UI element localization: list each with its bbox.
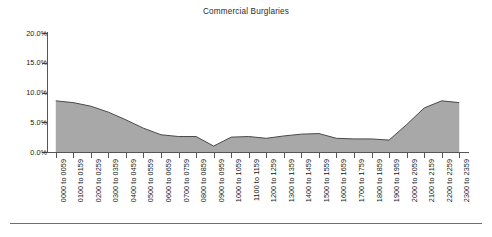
- x-tick-label: 1700 to 1759: [357, 159, 366, 202]
- x-tick-mark: [143, 153, 144, 158]
- x-tick-mark: [284, 153, 285, 158]
- area-series: [47, 33, 468, 152]
- x-tick-mark: [442, 153, 443, 158]
- x-tick-label: 2100 to 2159: [427, 159, 436, 202]
- x-tick-label: 1200 to 1259: [269, 159, 278, 202]
- x-tick-label: 0700 to 0759: [182, 159, 191, 202]
- x-tick-label: 1400 to 1459: [304, 159, 313, 202]
- x-tick-label: 1600 to 1659: [339, 159, 348, 202]
- x-tick-mark: [336, 153, 337, 158]
- x-tick-label: 1500 to 1559: [322, 159, 331, 202]
- chart-title: Commercial Burglaries: [0, 7, 492, 16]
- x-tick-mark: [196, 153, 197, 158]
- x-tick-label: 0900 to 0959: [217, 159, 226, 202]
- area-fill: [56, 101, 459, 152]
- y-tick-label: 20.0%: [9, 29, 47, 38]
- x-tick-label: 0600 to 0659: [164, 159, 173, 202]
- x-tick-mark: [161, 153, 162, 158]
- x-tick-mark: [108, 153, 109, 158]
- x-tick-label: 1800 to 1859: [375, 159, 384, 202]
- y-axis: 20.0%15.0%10.0%5.0%0.0%: [0, 0, 47, 237]
- x-tick-label: 2200 to 2259: [445, 159, 454, 202]
- x-tick-mark: [389, 153, 390, 158]
- x-axis-labels: 0000 to 00590100 to 01590200 to 02590300…: [47, 159, 468, 219]
- x-tick-label: 2300 to 2359: [462, 159, 471, 202]
- x-tick-mark: [179, 153, 180, 158]
- x-tick-label: 1300 to 1359: [287, 159, 296, 202]
- x-tick-mark: [126, 153, 127, 158]
- y-tick-label: 0.0%: [9, 148, 47, 157]
- x-tick-label: 0500 to 0559: [146, 159, 155, 202]
- x-tick-label: 0000 to 0059: [59, 159, 68, 202]
- x-tick-mark: [319, 153, 320, 158]
- x-tick-mark: [56, 153, 57, 158]
- x-tick-label: 0800 to 0859: [199, 159, 208, 202]
- chart-figure: Commercial Burglaries 20.0%15.0%10.0%5.0…: [0, 0, 492, 237]
- x-tick-mark: [459, 153, 460, 158]
- y-tick-label: 5.0%: [9, 118, 47, 127]
- x-tick-label: 1100 to 1159: [252, 159, 261, 201]
- x-tick-label: 0100 to 0159: [76, 159, 85, 202]
- x-tick-label: 1000 to 1059: [234, 159, 243, 202]
- x-tick-mark: [214, 153, 215, 158]
- y-tick-label: 10.0%: [9, 88, 47, 97]
- x-tick-label: 0200 to 0259: [94, 159, 103, 202]
- x-tick-mark: [301, 153, 302, 158]
- x-tick-mark: [73, 153, 74, 158]
- x-tick-mark: [91, 153, 92, 158]
- x-tick-mark: [424, 153, 425, 158]
- x-tick-mark: [231, 153, 232, 158]
- x-tick-mark: [354, 153, 355, 158]
- x-tick-label: 0300 to 0359: [111, 159, 120, 202]
- x-tick-mark: [249, 153, 250, 158]
- x-tick-label: 2000 to 2059: [410, 159, 419, 202]
- x-tick-label: 0400 to 0459: [129, 159, 138, 202]
- x-tick-label: 1900 to 1959: [392, 159, 401, 202]
- x-tick-mark: [407, 153, 408, 158]
- footer-divider: [10, 223, 482, 224]
- x-tick-mark: [372, 153, 373, 158]
- y-tick-label: 15.0%: [9, 58, 47, 67]
- x-tick-mark: [266, 153, 267, 158]
